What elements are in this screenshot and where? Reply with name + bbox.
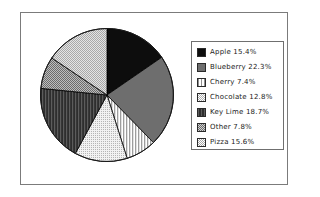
legend-label-chocolate: Chocolate 12.8% bbox=[210, 93, 273, 102]
pie-chart-svg bbox=[39, 27, 175, 163]
legend-item-blueberry: Blueberry 22.3% bbox=[197, 60, 280, 75]
legend-item-key-lime: Key Lime 18.7% bbox=[197, 105, 280, 120]
legend-item-other: Other 7.8% bbox=[197, 120, 280, 135]
legend-swatch-key-lime bbox=[197, 108, 206, 117]
legend-swatch-other bbox=[197, 123, 206, 132]
pie-chart bbox=[39, 27, 175, 163]
legend-label-apple: Apple 15.4% bbox=[210, 48, 257, 57]
legend-label-pizza: Pizza 15.6% bbox=[210, 138, 254, 147]
legend-swatch-pizza bbox=[197, 138, 206, 147]
legend-swatch-apple bbox=[197, 48, 206, 57]
legend-item-pizza: Pizza 15.6% bbox=[197, 135, 280, 150]
legend-label-cherry: Cherry 7.4% bbox=[210, 78, 256, 87]
legend-item-apple: Apple 15.4% bbox=[197, 45, 280, 60]
chart-frame: Apple 15.4% Blueberry 22.3% Cherry 7.4% … bbox=[20, 12, 288, 185]
legend-swatch-cherry bbox=[197, 78, 206, 87]
legend-item-cherry: Cherry 7.4% bbox=[197, 75, 280, 90]
pie-slice-group bbox=[41, 29, 174, 162]
legend-label-blueberry: Blueberry 22.3% bbox=[210, 63, 271, 72]
legend-item-chocolate: Chocolate 12.8% bbox=[197, 90, 280, 105]
legend-swatch-chocolate bbox=[197, 93, 206, 102]
legend-label-key-lime: Key Lime 18.7% bbox=[210, 108, 269, 117]
chart-legend: Apple 15.4% Blueberry 22.3% Cherry 7.4% … bbox=[191, 41, 284, 150]
legend-label-other: Other 7.8% bbox=[210, 123, 252, 132]
legend-swatch-blueberry bbox=[197, 63, 206, 72]
